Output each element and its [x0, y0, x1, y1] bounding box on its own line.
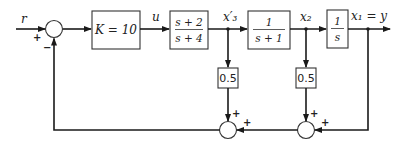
lead-block-numerator: s + 2 — [175, 16, 203, 28]
middle-summing-junction — [220, 122, 237, 139]
u-signal-label: u — [152, 10, 160, 24]
x3-signal-label: x′₃ — [223, 10, 237, 24]
gain-block-label: K = 10 — [94, 23, 137, 37]
lag-block-denominator: s + 1 — [255, 32, 283, 44]
x2-signal-label: x₂ — [300, 10, 312, 24]
left-sum-minus-sign: − — [43, 42, 51, 53]
middle-sum-right-plus-sign: + — [243, 117, 251, 128]
lead-block-denominator: s + 4 — [175, 32, 203, 44]
integrator-block-denominator: s — [335, 31, 341, 43]
lag-block-numerator: 1 — [266, 16, 273, 28]
right-sum-right-plus-sign: + — [321, 117, 329, 128]
feedback-gain-x2-label: 0.5 — [297, 72, 315, 85]
middle-sum-top-plus-sign: + — [232, 108, 240, 119]
output-label: x₁ = y — [351, 9, 387, 23]
left-summing-junction — [46, 21, 63, 38]
right-sum-top-plus-sign: + — [310, 108, 318, 119]
feedback-gain-x3-label: 0.5 — [219, 72, 237, 85]
main-feedback-path — [54, 39, 220, 131]
integrator-block-numerator: 1 — [334, 15, 341, 27]
block-diagram: r + − K = 10 u s + 2 s + 4 x′₃ 1 s + 1 x… — [0, 0, 405, 148]
right-summing-junction — [298, 122, 315, 139]
left-sum-plus-sign: + — [33, 32, 41, 43]
input-label: r — [21, 12, 28, 26]
